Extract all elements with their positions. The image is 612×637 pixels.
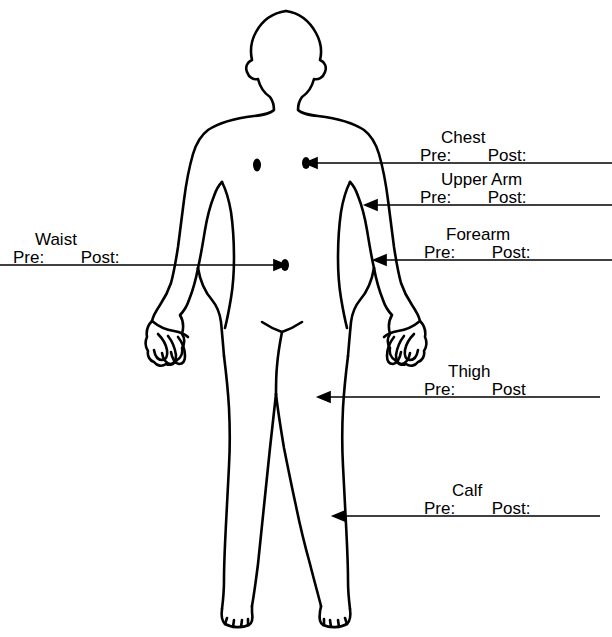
post-label-upper-arm[interactable]: Post: bbox=[488, 188, 527, 207]
annotation-fields-forearm: Pre: Post: bbox=[424, 243, 530, 262]
post-label-chest[interactable]: Post: bbox=[488, 146, 527, 165]
annotation-fields-chest: Pre: Post: bbox=[420, 146, 526, 165]
post-label-thigh[interactable]: Post bbox=[492, 380, 526, 399]
measurement-diagram-page: Chest Pre: Post: Upper Arm Pre: Post: Fo… bbox=[0, 0, 612, 637]
post-label-forearm[interactable]: Post: bbox=[492, 243, 531, 262]
annotation-fields-calf: Pre: Post: bbox=[424, 499, 530, 518]
annotation-title-chest: Chest bbox=[441, 128, 485, 147]
post-label-waist[interactable]: Post: bbox=[81, 248, 120, 267]
annotation-title-calf: Calf bbox=[452, 481, 482, 500]
annotation-fields-upper-arm: Pre: Post: bbox=[420, 188, 526, 207]
pre-label-upper-arm[interactable]: Pre: bbox=[420, 188, 451, 207]
pre-label-waist[interactable]: Pre: bbox=[13, 248, 44, 267]
pre-label-thigh[interactable]: Pre: bbox=[424, 380, 455, 399]
pre-label-chest[interactable]: Pre: bbox=[420, 146, 451, 165]
post-label-calf[interactable]: Post: bbox=[492, 499, 531, 518]
annotation-title-thigh: Thigh bbox=[448, 362, 491, 381]
body-figure-illustration bbox=[0, 0, 612, 637]
nipple-mark-left bbox=[253, 159, 261, 172]
body-outline bbox=[146, 11, 427, 627]
annotation-title-forearm: Forearm bbox=[446, 225, 510, 244]
annotation-title-waist: Waist bbox=[35, 230, 77, 249]
pre-label-calf[interactable]: Pre: bbox=[424, 499, 455, 518]
annotation-fields-waist: Pre: Post: bbox=[13, 248, 119, 267]
annotation-title-upper-arm: Upper Arm bbox=[441, 170, 522, 189]
pre-label-forearm[interactable]: Pre: bbox=[424, 243, 455, 262]
annotation-fields-thigh: Pre: Post bbox=[424, 380, 526, 399]
